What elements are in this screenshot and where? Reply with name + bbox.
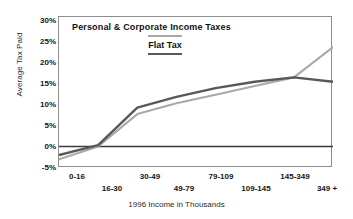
- legend-swatch-flat-tax: [148, 53, 182, 55]
- chart-legend: Personal & Corporate Income Taxes Flat T…: [64, 22, 314, 58]
- x-tick-label-349plus: 349 +: [317, 184, 337, 193]
- x-tick-label-49-79: 49-79: [174, 184, 194, 193]
- legend-label-personal-corporate: Personal & Corporate Income Taxes: [64, 22, 314, 32]
- y-tick-label-30: 30%: [40, 16, 56, 25]
- x-tick-label-145-349: 145-349: [280, 172, 309, 181]
- y-tick-label-15: 15%: [40, 79, 56, 88]
- series-line-flat-tax: [59, 77, 333, 155]
- x-tick-label-30-49: 30-49: [140, 172, 160, 181]
- legend-label-flat-tax: Flat Tax: [80, 40, 250, 50]
- x-axis-tick-labels: 0-16 16-30 30-49 49-79 79-109 109-145 14…: [0, 167, 353, 197]
- y-tick-label-0: 0%: [44, 142, 56, 151]
- x-tick-label-0-16: 0-16: [69, 172, 85, 181]
- y-tick-label-25: 25%: [40, 37, 56, 46]
- x-tick-label-79-109: 79-109: [209, 172, 234, 181]
- y-tick-label-10: 10%: [40, 100, 56, 109]
- y-tick-label-20: 20%: [40, 58, 56, 67]
- legend-swatch-personal-corporate: [148, 35, 182, 37]
- y-tick-label-5: 5%: [44, 121, 56, 130]
- x-axis-title: 1996 Income in Thousands: [0, 200, 353, 209]
- chart-container: Average Tax Paid 30% 25% 20% 15% 10% 5% …: [0, 0, 353, 219]
- x-tick-label-109-145: 109-145: [241, 184, 270, 193]
- x-tick-label-16-30: 16-30: [102, 184, 122, 193]
